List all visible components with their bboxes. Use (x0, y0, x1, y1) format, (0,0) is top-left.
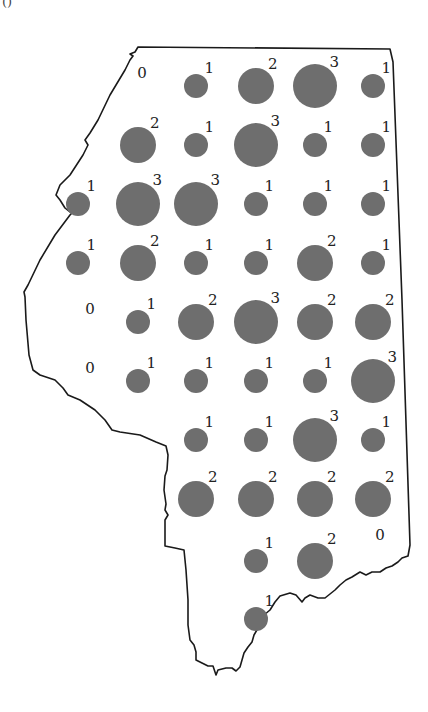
count-label: 3 (210, 171, 220, 189)
count-label: 2 (327, 232, 337, 250)
count-label: 2 (150, 114, 160, 132)
count-dot (355, 481, 391, 517)
count-label: 1 (381, 59, 391, 77)
count-label: 2 (208, 291, 218, 309)
count-dot (178, 481, 214, 517)
count-label: 3 (329, 407, 339, 425)
count-label: 3 (152, 171, 162, 189)
count-label: 0 (85, 359, 95, 377)
count-dot (244, 369, 268, 393)
count-dot (361, 192, 385, 216)
count-label: 2 (327, 468, 337, 486)
count-label: 1 (204, 354, 214, 372)
count-label: 1 (264, 354, 274, 372)
count-label: 1 (381, 236, 391, 254)
count-dot (184, 369, 208, 393)
count-dot (244, 428, 268, 452)
region-outline (24, 47, 410, 675)
count-dot (178, 304, 214, 340)
count-label: 0 (85, 300, 95, 318)
count-dot (297, 543, 333, 579)
count-dot (361, 251, 385, 275)
count-label: 1 (146, 295, 156, 313)
count-dot (244, 549, 268, 573)
count-label: 2 (385, 291, 395, 309)
count-label: 1 (204, 59, 214, 77)
count-dot (355, 304, 391, 340)
count-label: 1 (86, 177, 96, 195)
count-dot (184, 428, 208, 452)
count-label: 2 (208, 468, 218, 486)
count-label: 1 (264, 413, 274, 431)
count-label: 2 (268, 55, 278, 73)
dot-density-map: 0123121311133111121121012322011113113122… (0, 0, 428, 712)
count-dot (238, 68, 274, 104)
count-dot (66, 192, 90, 216)
count-label: 1 (264, 177, 274, 195)
count-dot (66, 251, 90, 275)
count-dot (361, 428, 385, 452)
count-dot (120, 127, 156, 163)
count-label: 3 (387, 348, 397, 366)
count-label: 1 (323, 354, 333, 372)
count-dot (244, 251, 268, 275)
count-label: 1 (146, 354, 156, 372)
count-label: 1 (381, 413, 391, 431)
count-label: 2 (327, 291, 337, 309)
count-dot (126, 369, 150, 393)
count-label: 1 (323, 177, 333, 195)
count-label: 1 (86, 236, 96, 254)
count-dot (184, 74, 208, 98)
count-label: 3 (329, 53, 339, 71)
count-label: 1 (264, 592, 274, 610)
count-dot (244, 192, 268, 216)
count-label: 2 (327, 530, 337, 548)
count-dot (120, 245, 156, 281)
count-label: 1 (264, 534, 274, 552)
count-dot (184, 251, 208, 275)
count-label: 1 (204, 118, 214, 136)
count-label: 1 (204, 413, 214, 431)
count-dot (244, 607, 268, 631)
count-label: 1 (381, 177, 391, 195)
count-dot (303, 192, 327, 216)
cell-layer: 0123121311133111121121012322011113113122… (66, 53, 397, 631)
count-label: 2 (150, 232, 160, 250)
count-label: 0 (375, 526, 385, 544)
count-dot (361, 133, 385, 157)
count-label: 1 (264, 236, 274, 254)
count-dot (238, 481, 274, 517)
count-dot (184, 133, 208, 157)
count-label: 3 (270, 289, 280, 307)
count-label: 1 (381, 118, 391, 136)
count-label: 2 (385, 468, 395, 486)
count-label: 3 (270, 112, 280, 130)
count-dot (297, 245, 333, 281)
count-label: 1 (323, 118, 333, 136)
count-label: 1 (204, 236, 214, 254)
count-dot (126, 310, 150, 334)
count-dot (297, 481, 333, 517)
count-label: 0 (137, 64, 147, 82)
count-dot (297, 304, 333, 340)
count-dot (361, 74, 385, 98)
count-dot (303, 369, 327, 393)
count-label: 2 (268, 468, 278, 486)
count-dot (303, 133, 327, 157)
